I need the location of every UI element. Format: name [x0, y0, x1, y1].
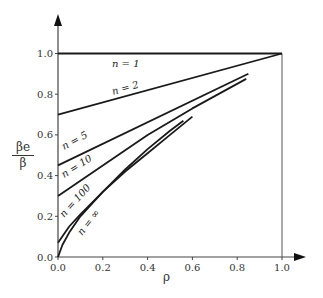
y-label-denominator: β: [12, 156, 34, 170]
y-tick-label: 0.6: [37, 129, 53, 140]
plot-area: 0.00.20.40.60.81.00.00.20.40.60.81.0 n =…: [0, 0, 323, 298]
x-tick-label: 1.0: [274, 262, 290, 273]
y-tick-label: 1.0: [37, 48, 53, 59]
y-tick-label: 0.4: [37, 170, 53, 181]
x-axis-label: ρ: [163, 270, 170, 284]
x-axis-arrow-icon: [294, 253, 306, 261]
series-label: n = ∞: [75, 207, 102, 237]
x-tick-label: 0.2: [95, 262, 111, 273]
y-label-numerator: βe: [12, 140, 34, 156]
y-axis-label: βe β: [12, 140, 34, 170]
x-tick-label: 0.4: [140, 262, 156, 273]
chart: 0.00.20.40.60.81.00.00.20.40.60.81.0 n =…: [0, 0, 323, 298]
series-label: n = 1: [112, 58, 140, 69]
y-tick-label: 0.0: [37, 252, 53, 263]
x-tick-label: 0.8: [229, 262, 245, 273]
series-line: [58, 54, 282, 115]
series-label: n = 5: [60, 129, 89, 152]
y-tick-label: 0.2: [37, 211, 53, 222]
y-axis-arrow-icon: [54, 14, 62, 26]
y-tick-label: 0.8: [37, 89, 53, 100]
x-tick-label: 0.6: [184, 262, 200, 273]
series-line: [58, 74, 248, 166]
x-tick-label: 0.0: [50, 262, 66, 273]
